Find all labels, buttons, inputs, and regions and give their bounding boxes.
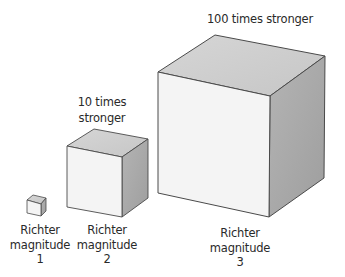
annotation-2-line2: stronger <box>67 110 137 126</box>
label-1-line3: 1 <box>4 252 76 267</box>
label-3-line3: 3 <box>204 255 276 270</box>
label-2-line1: Richter <box>71 223 143 238</box>
annotation-2-line1: 10 times <box>67 94 137 110</box>
label-2-line3: 2 <box>71 252 143 267</box>
cube-2-front-face <box>67 146 122 217</box>
cube-magnitude-3 <box>158 35 325 217</box>
label-magnitude-1: Richter magnitude 1 <box>4 223 76 267</box>
annotation-3-line1: 100 times stronger <box>200 12 320 27</box>
cube-magnitude-2 <box>67 129 148 217</box>
annotation-10-times-stronger: 10 times stronger <box>67 94 137 126</box>
label-3-line1: Richter <box>204 226 276 241</box>
label-magnitude-3: Richter magnitude 3 <box>204 226 276 270</box>
cube-3-front-face <box>158 72 270 217</box>
label-1-line1: Richter <box>4 223 76 238</box>
label-1-line2: magnitude <box>4 238 76 253</box>
label-magnitude-2: Richter magnitude 2 <box>71 223 143 267</box>
label-3-line2: magnitude <box>204 241 276 256</box>
label-2-line2: magnitude <box>71 238 143 253</box>
cube-magnitude-1 <box>27 195 46 216</box>
annotation-100-times-stronger: 100 times stronger <box>200 12 320 27</box>
